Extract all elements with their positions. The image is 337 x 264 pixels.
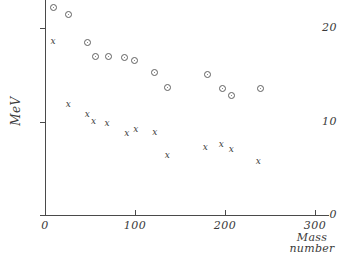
y-tick-label-20: 20 [311, 21, 337, 34]
data-point-circle-9 [204, 71, 211, 78]
x-axis-title: Mass number [288, 232, 336, 254]
data-point-x-1: x [64, 100, 73, 109]
data-point-x-10: x [217, 140, 226, 149]
data-point-circle-4 [105, 53, 112, 60]
x-axis-title-line2: number [288, 243, 336, 254]
data-point-x-3: x [89, 117, 98, 126]
data-point-x-9: x [201, 143, 210, 152]
data-point-x-12: x [254, 157, 263, 166]
data-point-circle-2 [84, 39, 91, 46]
data-point-circle-10 [219, 85, 226, 92]
x-tick-200 [225, 210, 226, 216]
scatter-plot: 01020 0100200300 MeV Mass number xxxxxxx… [0, 0, 337, 264]
x-tick-label-200: 200 [205, 219, 245, 232]
data-point-circle-7 [151, 69, 158, 76]
data-point-x-0: x [49, 37, 58, 46]
data-point-circle-3 [92, 53, 99, 60]
x-tick-label-0: 0 [25, 219, 65, 232]
y-axis-line [45, 0, 46, 216]
data-point-circle-12 [257, 85, 264, 92]
x-tick-label-100: 100 [115, 219, 155, 232]
data-point-x-8: x [163, 151, 172, 160]
data-point-circle-1 [65, 11, 72, 18]
x-tick-100 [135, 210, 136, 216]
y-tick-20 [40, 28, 46, 29]
data-point-circle-0 [50, 4, 57, 11]
data-point-x-5: x [122, 129, 131, 138]
x-tick-300 [315, 210, 316, 216]
data-point-x-4: x [103, 119, 112, 128]
y-tick-label-10: 10 [311, 115, 337, 128]
x-axis-line [45, 215, 329, 216]
y-axis-title: MeV [9, 89, 23, 133]
data-point-circle-5 [121, 54, 128, 61]
data-point-circle-8 [164, 84, 171, 91]
data-point-circle-6 [131, 57, 138, 64]
data-point-x-6: x [131, 125, 140, 134]
x-tick-0 [45, 210, 46, 216]
data-point-x-7: x [150, 128, 159, 137]
y-tick-10 [40, 122, 46, 123]
data-point-x-11: x [227, 145, 236, 154]
data-point-circle-11 [228, 92, 235, 99]
